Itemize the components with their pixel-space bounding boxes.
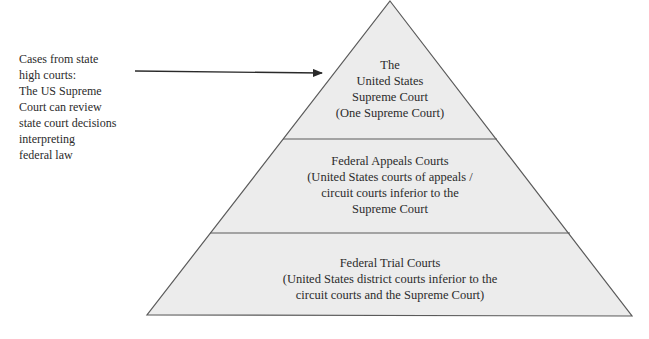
tier-line: circuit courts inferior to the	[240, 185, 540, 201]
note-line: Court can review	[19, 99, 159, 115]
tier-line: Supreme Court	[290, 89, 490, 105]
note-line: interpreting	[19, 131, 159, 147]
tier-line: Supreme Court	[240, 201, 540, 217]
state-court-review-note: Cases from state high courts: The US Sup…	[19, 51, 159, 163]
tier-appeals-courts: Federal Appeals Courts (United States co…	[240, 153, 540, 217]
tier-line: The	[290, 57, 490, 73]
tier-line: circuit courts and the Supreme Court)	[200, 287, 580, 303]
tier-line: United States	[290, 73, 490, 89]
note-line: state court decisions	[19, 115, 159, 131]
tier-supreme-court: The United States Supreme Court (One Sup…	[290, 57, 490, 121]
tier-trial-courts: Federal Trial Courts (United States dist…	[200, 255, 580, 303]
note-line: The US Supreme	[19, 83, 159, 99]
note-line: high courts:	[19, 67, 159, 83]
tier-line: (United States courts of appeals /	[240, 169, 540, 185]
tier-line: Federal Trial Courts	[200, 255, 580, 271]
note-line: Cases from state	[19, 51, 159, 67]
tier-line: (United States district courts inferior …	[200, 271, 580, 287]
tier-line: (One Supreme Court)	[290, 105, 490, 121]
tier-line: Federal Appeals Courts	[240, 153, 540, 169]
note-line: federal law	[19, 147, 159, 163]
